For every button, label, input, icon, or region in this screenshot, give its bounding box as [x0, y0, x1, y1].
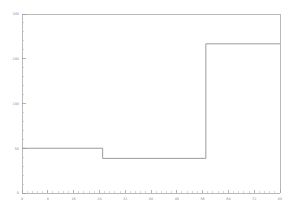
x-tick-label: 32 [123, 197, 127, 201]
plot-background [22, 14, 280, 193]
step-plot-svg: 300 200 100 50 0 [0, 0, 301, 209]
chart-figure: 300 200 100 50 0 [0, 0, 301, 209]
x-tick-label: 40 [149, 197, 153, 201]
y-tick-label: 100 [13, 102, 19, 106]
x-tick-label: 0 [21, 197, 23, 201]
x-tick-label: 64 [226, 197, 230, 201]
x-tick-label: 48 [175, 197, 179, 201]
y-tick-label: 200 [13, 57, 19, 61]
x-axis-tick-labels: 0 8 16 24 32 40 48 56 64 72 80 [21, 197, 282, 201]
x-tick-label: 16 [71, 197, 75, 201]
y-tick-label: 300 [13, 12, 19, 16]
x-tick-label: 24 [97, 197, 101, 201]
y-axis-tick-labels: 300 200 100 50 0 [13, 12, 19, 195]
y-tick-label: 50 [15, 147, 19, 151]
x-tick-label: 56 [200, 197, 204, 201]
x-tick-label: 80 [278, 197, 282, 201]
x-tick-label: 72 [252, 197, 256, 201]
y-tick-label: 0 [17, 191, 19, 195]
x-tick-label: 8 [47, 197, 49, 201]
